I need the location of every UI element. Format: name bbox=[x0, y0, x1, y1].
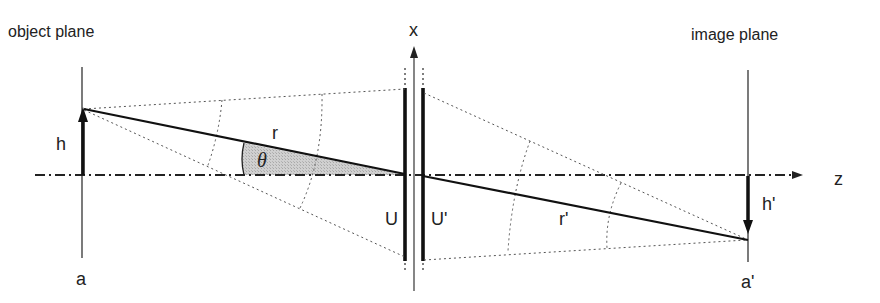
x-axis-arrow-icon bbox=[410, 46, 418, 58]
image-point-label: a' bbox=[741, 272, 754, 292]
angle-theta-label: θ bbox=[257, 149, 267, 171]
x-axis-label: x bbox=[409, 20, 418, 40]
ray-r-prime bbox=[423, 176, 748, 240]
plane-U-label: U bbox=[385, 209, 398, 229]
z-axis-label: z bbox=[834, 169, 843, 189]
object-plane-label: object plane bbox=[8, 23, 94, 40]
object-point-label: a bbox=[76, 269, 87, 289]
distance-r-label: r bbox=[272, 123, 278, 143]
image-plane-label: image plane bbox=[691, 26, 778, 43]
image-arrow-head-icon bbox=[743, 220, 753, 234]
object-height-label: h bbox=[56, 134, 66, 154]
image-side-ray-cone bbox=[424, 93, 746, 260]
z-axis-arrow-icon bbox=[792, 171, 803, 179]
image-height-label: h' bbox=[762, 194, 775, 214]
distance-r-prime-label: r' bbox=[559, 209, 568, 229]
plane-U-prime-label: U' bbox=[431, 209, 447, 229]
optical-diagram: object plane image plane x z h h' a a' r… bbox=[0, 0, 880, 303]
